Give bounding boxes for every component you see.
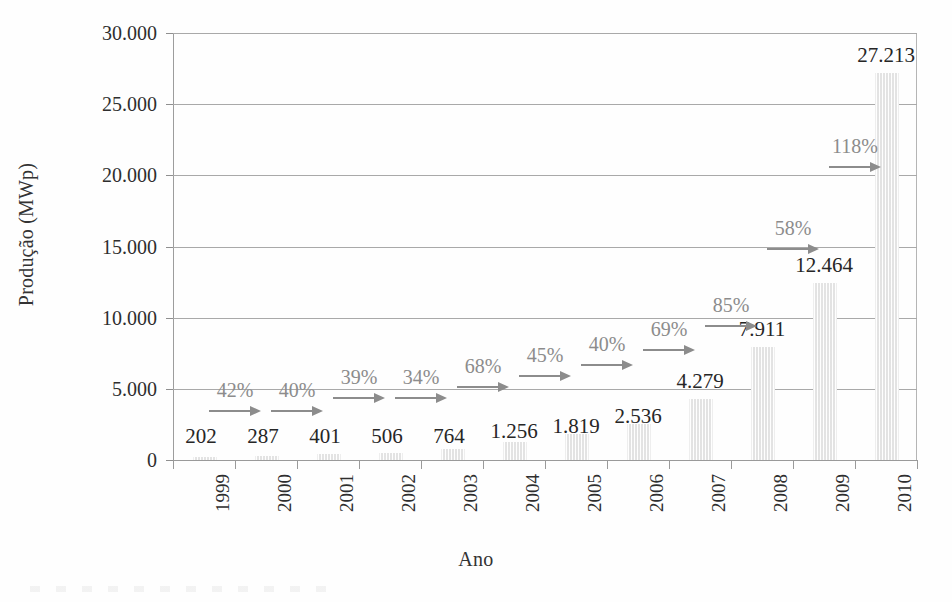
growth-arrow-icon: [333, 392, 385, 404]
x-axis-tick-mark: [793, 460, 794, 469]
arrow-head: [622, 360, 633, 370]
growth-percent-label: 42%: [217, 379, 254, 402]
arrow-shaft: [333, 397, 376, 399]
y-axis-tick-label: 25.000: [27, 93, 157, 116]
x-axis-tick-mark: [483, 460, 484, 469]
bar: [193, 457, 217, 460]
gridline: [173, 33, 917, 34]
bar: [441, 449, 465, 460]
bar-value-label: 12.464: [795, 253, 853, 278]
growth-percent-label: 40%: [589, 333, 626, 356]
arrow-head: [374, 393, 385, 403]
growth-arrow-icon: [395, 392, 447, 404]
x-axis-tick-label: 2000: [274, 474, 296, 538]
y-axis-tick-label: 15.000: [27, 235, 157, 258]
bar-value-label: 4.279: [676, 369, 723, 394]
bar-value-label: 506: [371, 424, 403, 449]
x-axis-tick-mark: [731, 460, 732, 469]
growth-percent-label: 45%: [527, 344, 564, 367]
growth-arrow-icon: [271, 405, 323, 417]
growth-arrow-icon: [767, 243, 819, 255]
growth-percent-label: 85%: [713, 294, 750, 317]
x-axis-tick-mark: [917, 460, 918, 469]
growth-percent-label: 39%: [341, 366, 378, 389]
growth-arrow-icon: [519, 370, 571, 382]
y-axis-tick-label: 10.000: [27, 306, 157, 329]
x-axis-tick-label: 2007: [708, 474, 730, 538]
bar-value-label: 287: [247, 424, 279, 449]
bar: [317, 454, 341, 460]
scan-artifact: [30, 586, 330, 592]
bar: [379, 453, 403, 460]
growth-percent-label: 68%: [465, 355, 502, 378]
x-axis-tick-mark: [359, 460, 360, 469]
bar-value-label: 401: [309, 424, 341, 449]
y-axis-tick-label: 0: [27, 449, 157, 472]
x-axis-title: Ano: [0, 548, 952, 571]
chart-figure: Produção (MWp) Ano 05.00010.00015.00020.…: [0, 0, 952, 602]
x-axis-tick-label: 2001: [336, 474, 358, 538]
growth-percent-label: 118%: [832, 135, 878, 158]
x-axis-tick-mark: [669, 460, 670, 469]
x-axis-tick-mark: [297, 460, 298, 469]
arrow-head: [684, 345, 695, 355]
bar: [627, 424, 651, 460]
growth-arrow-icon: [209, 405, 261, 417]
arrow-head: [560, 371, 571, 381]
growth-percent-label: 34%: [403, 366, 440, 389]
x-axis-tick-mark: [173, 460, 174, 469]
bar: [503, 442, 527, 460]
bar: [255, 456, 279, 460]
growth-percent-label: 69%: [651, 318, 688, 341]
bar-value-label: 1.819: [552, 414, 599, 439]
x-axis-tick-label: 2008: [770, 474, 792, 538]
growth-percent-label: 58%: [775, 217, 812, 240]
bar: [751, 347, 775, 460]
arrow-shaft: [581, 364, 624, 366]
arrow-head: [498, 382, 509, 392]
bar-value-label: 764: [433, 424, 465, 449]
arrow-shaft: [767, 248, 810, 250]
arrow-shaft: [643, 349, 686, 351]
bar-value-label: 202: [185, 424, 217, 449]
bar: [813, 283, 837, 460]
bar: [689, 399, 713, 460]
arrow-shaft: [705, 325, 748, 327]
x-axis-tick-mark: [855, 460, 856, 469]
bar-value-label: 27.213: [857, 43, 915, 68]
plot-area: 2022874015067641.2561.8192.5364.2797.911…: [173, 33, 917, 460]
growth-arrow-icon: [829, 161, 881, 173]
arrow-head: [312, 406, 323, 416]
arrow-head: [808, 244, 819, 254]
y-axis-tick-label: 30.000: [27, 22, 157, 45]
x-axis-tick-label: 2006: [646, 474, 668, 538]
bar: [875, 73, 899, 460]
arrow-shaft: [457, 386, 500, 388]
x-axis-tick-label: 2005: [584, 474, 606, 538]
arrow-head: [870, 162, 881, 172]
growth-arrow-icon: [643, 344, 695, 356]
arrow-head: [250, 406, 261, 416]
arrow-head: [436, 393, 447, 403]
x-axis-tick-mark: [607, 460, 608, 469]
gridline: [173, 104, 917, 105]
x-axis-tick-mark: [421, 460, 422, 469]
gridline: [173, 175, 917, 176]
x-axis-tick-label: 2004: [522, 474, 544, 538]
growth-percent-label: 40%: [279, 379, 316, 402]
arrow-shaft: [829, 166, 872, 168]
x-axis-tick-label: 2010: [894, 474, 916, 538]
x-axis-tick-label: 2002: [398, 474, 420, 538]
gridline: [173, 318, 917, 319]
x-axis-tick-mark: [235, 460, 236, 469]
growth-arrow-icon: [581, 359, 633, 371]
x-axis-tick-label: 1999: [212, 474, 234, 538]
growth-arrow-icon: [705, 320, 757, 332]
arrow-head: [746, 321, 757, 331]
arrow-shaft: [395, 397, 438, 399]
growth-arrow-icon: [457, 381, 509, 393]
x-axis-tick-label: 2009: [832, 474, 854, 538]
y-axis-tick-label: 5.000: [27, 377, 157, 400]
bar-value-label: 1.256: [490, 419, 537, 444]
y-axis-tick-label: 20.000: [27, 164, 157, 187]
